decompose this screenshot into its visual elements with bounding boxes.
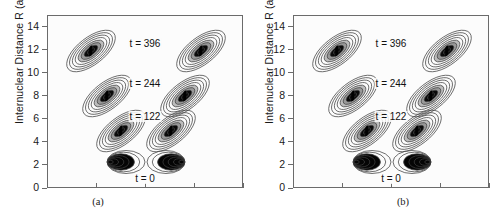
y-tick-label: 12 xyxy=(273,43,285,55)
contour-figure: Internuclear Distance R (a.u.) 141210864… xyxy=(0,0,496,222)
plot-area-a: t = 396t = 244t = 122t = 0 xyxy=(47,15,243,188)
time-annotation: t = 122 xyxy=(375,111,408,122)
time-annotation: t = 244 xyxy=(375,78,408,89)
time-annotation: t = 396 xyxy=(375,38,408,49)
time-annotation: t = 0 xyxy=(134,173,156,184)
panel-caption-b: (b) xyxy=(310,196,496,207)
y-tick-label: 14 xyxy=(273,20,285,32)
x-tick-mark xyxy=(47,183,48,188)
time-annotation: t = 396 xyxy=(129,38,162,49)
y-tick-label: 6 xyxy=(33,112,39,124)
panel-a: Internuclear Distance R (a.u.) 141210864… xyxy=(0,0,248,222)
time-annotation: t = 0 xyxy=(380,173,402,184)
panel-b: Internuclear Distance R (a.u.) 141210864… xyxy=(248,0,496,222)
y-tick-label: 4 xyxy=(33,135,39,147)
y-tick-label: 0 xyxy=(279,181,285,193)
time-annotation: t = 244 xyxy=(129,78,162,89)
y-tick-label: 0 xyxy=(33,181,39,193)
x-tick-mark xyxy=(293,183,294,188)
y-tick-label: 12 xyxy=(27,43,39,55)
y-tick-label: 2 xyxy=(33,158,39,170)
y-tick-label: 4 xyxy=(279,135,285,147)
time-annotation: t = 122 xyxy=(129,111,162,122)
y-tick-label: 14 xyxy=(27,20,39,32)
y-tick-label: 10 xyxy=(27,66,39,78)
y-tick-label: 10 xyxy=(273,66,285,78)
y-tick-label: 6 xyxy=(279,112,285,124)
y-tick-label: 8 xyxy=(33,89,39,101)
x-tick-mark xyxy=(489,183,490,188)
x-tick-mark xyxy=(243,183,244,188)
plot-area-b: t = 396t = 244t = 122t = 0 xyxy=(293,15,489,188)
panel-caption-a: (a) xyxy=(0,196,248,207)
y-tick-label: 8 xyxy=(279,89,285,101)
y-tick-label: 2 xyxy=(279,158,285,170)
